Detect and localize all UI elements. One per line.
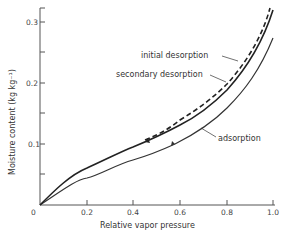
- leader-line-initial: [222, 56, 238, 61]
- x-axis-label: Relative vapor pressure: [100, 221, 195, 230]
- origin-label: 0: [31, 208, 36, 217]
- annotation-initial-desorption: initial desorption: [141, 51, 208, 60]
- secondary-desorption-curve: [40, 10, 273, 205]
- y-tick-label-0.3: 0.3: [26, 18, 38, 27]
- x-tick-label-1.0: 1.0: [267, 208, 279, 217]
- x-tick-label-0.2: 0.2: [81, 208, 93, 217]
- y-axis-label: Moisture content (kg kg⁻¹): [8, 69, 17, 175]
- y-tick-label-0.2: 0.2: [26, 79, 38, 88]
- x-tick-label-0.8: 0.8: [221, 208, 233, 217]
- leader-line-secondary: [210, 75, 226, 82]
- adsorption-curve: [40, 38, 273, 205]
- x-tick-label-0.4: 0.4: [127, 208, 139, 217]
- sorption-isotherm-chart: 0.3 0.2 0.1 0 0.2 0.4 0.6 0.8 1.0 Relati…: [0, 0, 298, 238]
- y-tick-label-0.1: 0.1: [28, 140, 40, 149]
- x-tick-label-0.6: 0.6: [174, 208, 186, 217]
- annotation-secondary-desorption: secondary desorption: [116, 70, 203, 79]
- annotation-adsorption: adsorption: [218, 134, 261, 143]
- leader-line-adsorption: [201, 128, 216, 137]
